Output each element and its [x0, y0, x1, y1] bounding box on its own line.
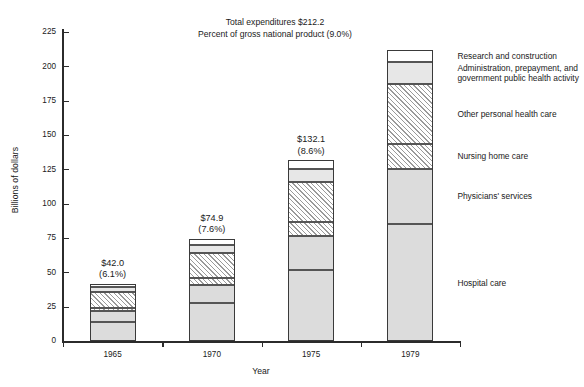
bar-1975: [288, 160, 334, 341]
legend-label-line1: Other personal health care: [457, 109, 584, 120]
y-tick-label: 125: [30, 166, 56, 174]
bar-segment-1965-administration-prepayment-and-government-public-health-activity: [90, 287, 136, 292]
bar-percent-label: (8.6%): [266, 146, 356, 158]
legend-label-line1: Administration, prepayment, and: [457, 63, 584, 74]
bar-value-label-1975: $132.1(8.6%): [266, 134, 356, 157]
x-tick-mark: [63, 341, 64, 347]
y-tick-label: 225: [30, 28, 56, 36]
bar-segment-1970-other-personal-health-care: [189, 253, 235, 278]
x-tick-label-1970: 1970: [182, 350, 242, 359]
bar-segment-1970-administration-prepayment-and-government-public-health-activity: [189, 245, 235, 254]
bar-percent-label: (6.1%): [68, 269, 158, 281]
y-tick-mark: [62, 169, 69, 170]
bar-segment-1975-nursing-home-care: [288, 222, 334, 236]
y-tick-label: 0: [30, 337, 56, 345]
bar-segment-1970-hospital-care: [189, 303, 235, 341]
legend-label-line1: Research and construction: [457, 51, 584, 62]
bar-segment-1965-physicians-services: [90, 311, 136, 323]
legend-label-line1: Nursing home care: [457, 151, 584, 162]
y-tick-mark: [62, 238, 69, 239]
y-tick-mark: [62, 32, 69, 33]
bar-segment-1979-hospital-care: [387, 224, 433, 341]
bar-segment-1970-physicians-services: [189, 285, 235, 304]
bar-segment-1979-nursing-home-care: [387, 144, 433, 168]
y-tick-mark: [62, 135, 69, 136]
bar-segment-1970-nursing-home-care: [189, 278, 235, 284]
x-tick-mark: [262, 341, 263, 347]
bar-total-label: $132.1: [266, 134, 356, 146]
bar-segment-1979-administration-prepayment-and-government-public-health-activity: [387, 62, 433, 84]
x-tick-label-1979: 1979: [380, 350, 440, 359]
y-tick-mark: [62, 66, 69, 67]
bar-total-label: $74.9: [167, 213, 257, 225]
bar-segment-1975-research-and-construction: [288, 160, 334, 169]
y-tick-label: 50: [30, 269, 56, 277]
y-tick-label: 150: [30, 131, 56, 139]
bar-value-label-1965: $42.0(6.1%): [68, 258, 158, 281]
y-tick-label: 75: [30, 234, 56, 242]
bar-segment-1965-hospital-care: [90, 322, 136, 341]
percent-gnp-line: Percent of gross national product (9.0%): [150, 29, 400, 41]
bar-segment-1979-other-personal-health-care: [387, 84, 433, 144]
bar-segment-1975-other-personal-health-care: [288, 182, 334, 222]
y-tick-mark: [62, 204, 69, 205]
legend-item-physicians-services[interactable]: Physicians' services: [457, 191, 584, 202]
legend-label-line1: Physicians' services: [457, 191, 584, 202]
bar-1979: [387, 50, 433, 341]
chart-header-annotation: Total expenditures $212.2 Percent of gro…: [150, 17, 400, 40]
bar-segment-1975-hospital-care: [288, 270, 334, 342]
y-tick-label: 200: [30, 63, 56, 71]
x-tick-mark: [162, 341, 163, 347]
bar-segment-1965-nursing-home-care: [90, 308, 136, 311]
bar-segment-1979-research-and-construction: [387, 50, 433, 62]
bar-1970: [189, 239, 235, 342]
legend-item-research-and-construction[interactable]: Research and construction: [457, 51, 584, 62]
bar-segment-1975-physicians-services: [288, 236, 334, 270]
y-axis-title: Billions of dollars: [10, 120, 20, 240]
legend-item-nursing-home-care[interactable]: Nursing home care: [457, 151, 584, 162]
x-tick-label-1975: 1975: [281, 350, 341, 359]
bar-segment-1965-other-personal-health-care: [90, 292, 136, 308]
legend-item-hospital-care[interactable]: Hospital care: [457, 278, 584, 289]
bar-percent-label: (7.6%): [167, 224, 257, 236]
bar-segment-1965-research-and-construction: [90, 284, 136, 287]
legend-label-line1: Hospital care: [457, 278, 584, 289]
bar-value-label-1970: $74.9(7.6%): [167, 213, 257, 236]
y-tick-label: 175: [30, 97, 56, 105]
bar-segment-1975-administration-prepayment-and-government-public-health-activity: [288, 169, 334, 182]
x-tick-mark: [460, 341, 461, 347]
x-tick-label-1965: 1965: [83, 350, 143, 359]
y-tick-label: 100: [30, 200, 56, 208]
y-tick-label: 25: [30, 303, 56, 311]
legend-item-administration-prepayment-and[interactable]: Administration, prepayment, andgovernmen…: [457, 63, 584, 84]
legend-label-line2: government public health activity: [457, 73, 584, 84]
y-tick-mark: [62, 307, 69, 308]
legend-item-other-personal-health-care[interactable]: Other personal health care: [457, 109, 584, 120]
bar-segment-1970-research-and-construction: [189, 239, 235, 245]
x-axis-title: Year: [62, 366, 460, 376]
x-tick-mark: [361, 341, 362, 347]
bar-segment-1979-physicians-services: [387, 169, 433, 225]
y-tick-mark: [62, 101, 69, 102]
bar-total-label: $42.0: [68, 258, 158, 270]
y-axis-line: [62, 29, 64, 342]
total-expenditures-line: Total expenditures $212.2: [150, 17, 400, 29]
bar-1965: [90, 284, 136, 342]
